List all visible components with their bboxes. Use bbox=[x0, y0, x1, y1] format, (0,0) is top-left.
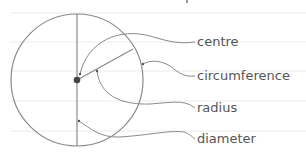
label-radius: radius bbox=[197, 100, 237, 115]
leader-circumference bbox=[143, 61, 195, 76]
circle-diagram: centre circumference radius diameter bbox=[0, 0, 306, 155]
label-diameter: diameter bbox=[197, 131, 257, 146]
centre-dot bbox=[74, 77, 81, 84]
label-centre: centre bbox=[197, 34, 239, 49]
label-circumference: circumference bbox=[197, 68, 290, 83]
leader-radius bbox=[97, 71, 195, 108]
radius-line bbox=[77, 49, 133, 80]
leader-diameter bbox=[79, 121, 195, 139]
cutoff-heading-glyph bbox=[186, 0, 188, 3]
